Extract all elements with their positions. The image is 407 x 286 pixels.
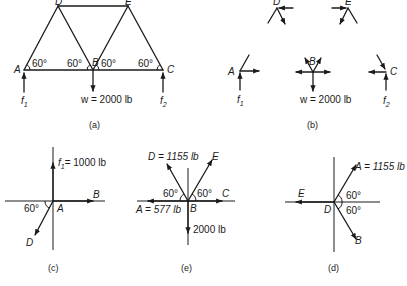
- joint-d: D: [268, 0, 293, 24]
- angle-label: 60°: [67, 58, 82, 69]
- force-label-c: C: [222, 188, 230, 199]
- angle-arc: [192, 194, 196, 201]
- load-label-f2: f2: [160, 95, 167, 108]
- force-label-e: E: [212, 151, 219, 162]
- node-label-e: E: [125, 0, 132, 7]
- joint-c: C f2: [369, 55, 398, 108]
- angle-arc: [157, 65, 160, 70]
- angle-arc: [45, 201, 49, 208]
- origin-label-d: D: [324, 204, 331, 215]
- force-label-b: B: [355, 235, 362, 246]
- joint-label-d: D: [273, 0, 280, 7]
- load-label-f1: f1: [21, 95, 28, 108]
- angle-label: 60°: [24, 203, 39, 214]
- angle-label: 60°: [32, 58, 47, 69]
- caption-a: (a): [89, 120, 100, 130]
- force-label-e: E: [298, 188, 305, 199]
- joint-b: B w = 2000 lb: [296, 56, 352, 105]
- caption-c: (c): [48, 263, 59, 273]
- origin-label-b: B: [190, 203, 197, 214]
- node-label-b: B: [92, 57, 99, 68]
- node-label-d: D: [55, 0, 62, 7]
- angle-label: 60°: [163, 188, 178, 199]
- figure-d-joint-d: A = 1155 lb E B D 60° 60° (d): [285, 157, 405, 273]
- figure-c-joint-a: f1= 1000 lb B A D 60° (c): [5, 147, 107, 273]
- load-label-f1: f1: [237, 94, 244, 107]
- load-label-w: w = 2000 lb: [80, 94, 133, 105]
- angle-label: 60°: [138, 58, 153, 69]
- joint-label-b: B: [309, 56, 316, 67]
- joint-label-a: A: [227, 66, 235, 77]
- caption-d: (d): [328, 263, 339, 273]
- joint-label-c: C: [390, 66, 398, 77]
- caption-e: (e): [181, 263, 192, 273]
- angle-label: 60°: [346, 190, 361, 201]
- joint-a: A f1: [227, 55, 259, 107]
- force-label-a: A = 577 lb: [135, 204, 181, 215]
- load-label-f2: f2: [383, 95, 390, 108]
- figure-e-joint-b: D = 1155 lb E C A = 577 lb B 2000 lb 60°…: [135, 151, 235, 273]
- angle-label: 60°: [346, 205, 361, 216]
- node-label-c: C: [167, 64, 175, 75]
- joint-e: E: [332, 0, 357, 24]
- joint-label-e: E: [345, 0, 352, 7]
- force-label-b: B: [93, 189, 100, 200]
- angle-label: 60°: [101, 58, 116, 69]
- origin-label-a: A: [56, 203, 64, 214]
- angle-arc: [87, 65, 90, 70]
- figure-a-truss: D E A B C 60° 60° 60° 60° f1 w = 2000 lb…: [13, 0, 175, 130]
- truss-free-body-diagrams: D E A B C 60° 60° 60° 60° f1 w = 2000 lb…: [0, 0, 407, 286]
- angle-arc: [180, 194, 184, 201]
- angle-arc: [27, 65, 30, 70]
- force-label-d: D: [26, 237, 33, 248]
- force-label-d: D = 1155 lb: [148, 151, 199, 162]
- node-label-a: A: [13, 64, 21, 75]
- angle-label: 60°: [197, 188, 212, 199]
- force-label-2000: 2000 lb: [193, 224, 226, 235]
- figure-b-joints: D E A f1 B w = 2000 lb: [227, 0, 398, 130]
- force-label-a: A = 1155 lb: [354, 161, 405, 172]
- load-label-w: w = 2000 lb: [299, 94, 352, 105]
- force-label-f1: f1= 1000 lb: [58, 157, 107, 170]
- caption-b: (b): [307, 120, 318, 130]
